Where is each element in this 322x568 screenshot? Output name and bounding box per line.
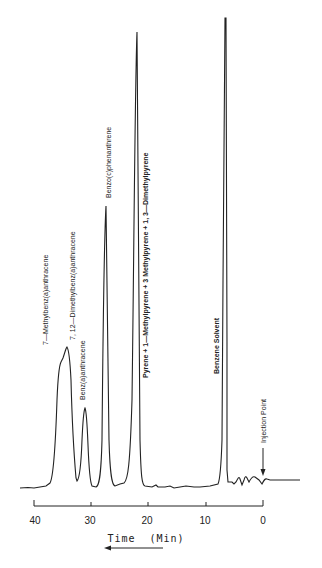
peak-label-7-methylbenzanthracene: 7—Methylbenz(a)anthracene [42,255,50,345]
peak-label-7-12-dimethylbenzanthracene: 7, 12—Dimethylbenz(a)anthracene [69,231,77,340]
peak-label-benzophenanthrene: Benzo(c)phenanthrene [105,127,113,198]
peak-label-benzanthracene: Benz(a)anthracene [79,340,87,400]
chromatogram-chart: 7—Methylbenz(a)anthracene 7, 12—Dimethyl… [0,0,322,568]
peak-label-benzene-solvent: Benzene Solvent [213,317,220,374]
chromatogram-trace [20,18,300,488]
x-tick-10: 10 [199,515,211,526]
x-tick-40: 40 [29,515,41,526]
injection-arrow-head-icon [261,469,266,476]
x-axis: 40 30 20 10 0 [29,500,266,526]
x-tick-20: 20 [141,515,153,526]
x-tick-30: 30 [84,515,96,526]
peak-label-pyrene-group: Pyrene + 1—Methylpyrene + 3 Methylpyrene… [142,152,150,378]
injection-point-label: Injection Point [260,399,268,443]
x-tick-0: 0 [260,515,266,526]
time-direction-arrow-icon [104,546,163,551]
x-axis-title: Time (Min) [107,533,184,544]
